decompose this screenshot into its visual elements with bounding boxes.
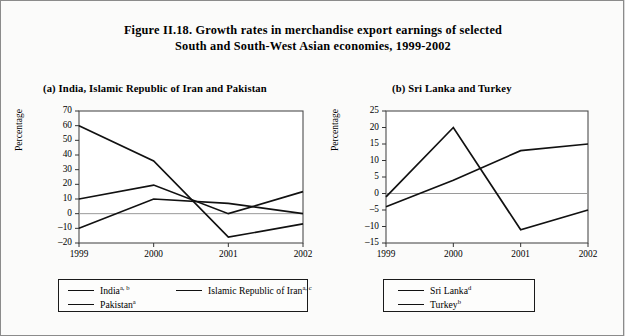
panel-a-y-tick: 60 <box>31 120 72 130</box>
panel-a-x-tick: 2000 <box>132 249 176 259</box>
panel-b-y-axis-label: Percentage <box>329 109 340 151</box>
legend-a-item[interactable]: Pakistana <box>68 298 136 310</box>
legend-line-swatch-icon <box>398 304 424 305</box>
legend-line-swatch-icon <box>68 304 94 305</box>
figure-title: Figure II.18. Growth rates in merchandis… <box>1 22 625 54</box>
panel-b-y-tick: 0 <box>346 188 379 198</box>
panel-b-y-tick: 10 <box>346 155 379 165</box>
panel-a-title: (a) India, Islamic Republic of Iran and … <box>43 83 267 94</box>
panel-a-y-tick: 20 <box>31 178 72 188</box>
panel-a-y-tick: –10 <box>31 222 72 232</box>
panel-b-x-tick: 2002 <box>566 249 610 259</box>
legend-b-item[interactable]: Turkeyb <box>398 298 461 310</box>
panel-b-x-tick: 2000 <box>431 249 475 259</box>
legend-a-item[interactable]: Indiaa, b <box>68 284 129 296</box>
panel-b-x-tick: 2001 <box>499 249 543 259</box>
panel-b-y-tick: 25 <box>346 105 379 115</box>
legend-a-label: Islamic Republic of Irana, c <box>208 284 312 296</box>
legend-b-footnote-marker: d <box>468 284 471 291</box>
panel-a-x-tick: 2001 <box>206 249 250 259</box>
panel-a-legend: Indiaa, bIslamic Republic of Irana, cPak… <box>58 279 308 312</box>
panel-b-y-tick: –15 <box>346 237 379 247</box>
legend-a-footnote-marker: a, b <box>120 284 130 291</box>
panel-a-y-tick: 0 <box>31 208 72 218</box>
panel-a-x-tick: 1999 <box>57 249 101 259</box>
legend-b-footnote-marker: b <box>458 298 461 305</box>
panel-b-y-tick: –5 <box>346 204 379 214</box>
panel-b-y-tick: –10 <box>346 221 379 231</box>
panel-a-y-tick: 70 <box>31 105 72 115</box>
legend-b-item[interactable]: Sri Lankad <box>398 284 471 296</box>
legend-a-item[interactable]: Islamic Republic of Irana, c <box>176 284 312 296</box>
legend-line-swatch-icon <box>398 290 424 291</box>
panel-a-y-tick: 40 <box>31 149 72 159</box>
panel-b-legend: Sri LankadTurkeyb <box>383 279 535 312</box>
panel-a-y-tick: 30 <box>31 164 72 174</box>
panel-a-x-tick: 2002 <box>281 249 325 259</box>
legend-b-label: Sri Lankad <box>430 284 471 296</box>
panel-b-y-tick: 20 <box>346 122 379 132</box>
legend-a-footnote-marker: a <box>133 298 136 305</box>
panel-a-y-tick: –20 <box>31 237 72 247</box>
panel-b-title: (b) Sri Lanka and Turkey <box>392 83 512 94</box>
panel-b-x-tick: 1999 <box>364 249 408 259</box>
panel-a-plot: 706050403020100–10–201999200020012002 <box>31 105 311 265</box>
figure-title-line-1: Figure II.18. Growth rates in merchandis… <box>1 22 625 38</box>
legend-a-label: Pakistana <box>100 298 136 310</box>
panel-b-y-tick: 5 <box>346 171 379 181</box>
panel-b-y-tick: 15 <box>346 138 379 148</box>
legend-line-swatch-icon <box>68 290 94 291</box>
legend-a-label: Indiaa, b <box>100 284 129 296</box>
panel-a-y-tick: 50 <box>31 134 72 144</box>
legend-b-label: Turkeyb <box>430 298 461 310</box>
legend-line-swatch-icon <box>176 290 202 291</box>
panel-b-plot: 2520151050–5–10–151999200020012002 <box>346 105 596 265</box>
panel-a-y-tick: 10 <box>31 193 72 203</box>
legend-a-footnote-marker: a, c <box>302 284 311 291</box>
panel-b-svg <box>346 105 596 265</box>
figure-title-line-2: South and South-West Asian economies, 19… <box>1 38 625 54</box>
panel-a-svg <box>31 105 311 265</box>
panel-a-y-axis-label: Percentage <box>13 109 24 151</box>
